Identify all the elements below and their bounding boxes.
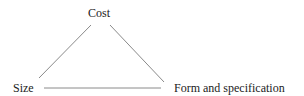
node-cost: Cost [88,6,110,20]
node-form-and-specification: Form and specification [174,81,285,95]
edge-cost-form [110,25,164,82]
node-size: Size [13,81,34,95]
triangle-diagram: Cost Size Form and specification [0,0,304,96]
edge-cost-size [39,25,91,78]
